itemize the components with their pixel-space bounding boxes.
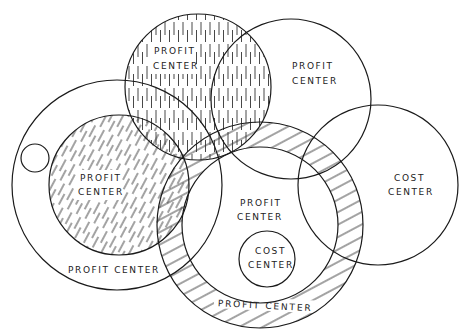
top-right-label-2: CENTER	[292, 76, 338, 86]
top-left-label-1: PROFIT	[154, 46, 196, 56]
inner-left-label-2: CENTER	[78, 187, 124, 197]
small-cost-label-1: COST	[255, 246, 286, 256]
middle-profit-label-2: CENTER	[237, 212, 283, 222]
top-left-label-2: CENTER	[153, 61, 199, 71]
inner-left-label-1: PROFIT	[80, 173, 122, 183]
diagram-svg: PROFIT CENTER PROFIT CENTER PROFIT CENTE…	[0, 0, 470, 329]
top-right-label-1: PROFIT	[292, 61, 334, 71]
large-left-label: PROFIT CENTER	[68, 265, 160, 275]
small-cost-label-2: CENTER	[248, 260, 294, 270]
middle-profit-label-1: PROFIT	[240, 198, 282, 208]
right-cost-label-2: CENTER	[388, 187, 434, 197]
right-cost-label-1: COST	[394, 173, 425, 183]
small-cost-circle	[239, 231, 295, 287]
org-diagram: PROFIT CENTER PROFIT CENTER PROFIT CENTE…	[0, 0, 470, 329]
